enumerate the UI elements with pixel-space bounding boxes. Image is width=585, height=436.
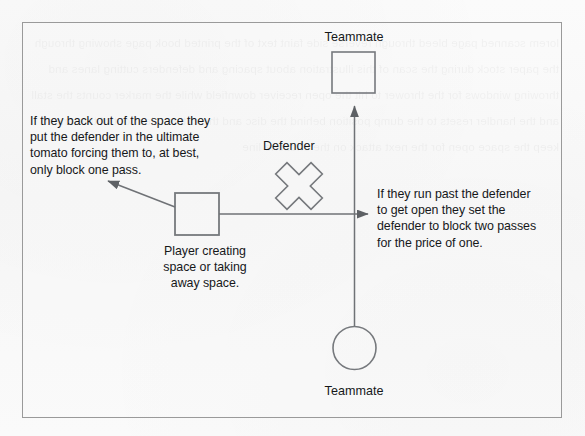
annotation-player: Player creating space or taking away spa… bbox=[140, 243, 270, 292]
defender-label: Defender bbox=[263, 139, 343, 154]
teammate-top-label: Teammate bbox=[312, 30, 396, 45]
annotation-back-out: If they back out of the space they put t… bbox=[30, 113, 240, 178]
teammate-bottom-label: Teammate bbox=[312, 384, 396, 399]
annotation-run-past: If they run past the defender to get ope… bbox=[377, 186, 577, 251]
diagram-page: lorem scanned page bleed through reverse… bbox=[0, 0, 585, 436]
